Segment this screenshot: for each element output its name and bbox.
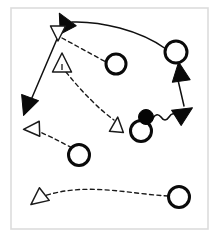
player-marker <box>169 187 190 208</box>
player-marker <box>69 145 90 166</box>
play-diagram-canvas <box>0 0 219 239</box>
player-marker <box>106 54 126 74</box>
player-marker <box>165 41 187 63</box>
ball-marker <box>139 110 154 125</box>
play-diagram-svg <box>0 0 219 239</box>
